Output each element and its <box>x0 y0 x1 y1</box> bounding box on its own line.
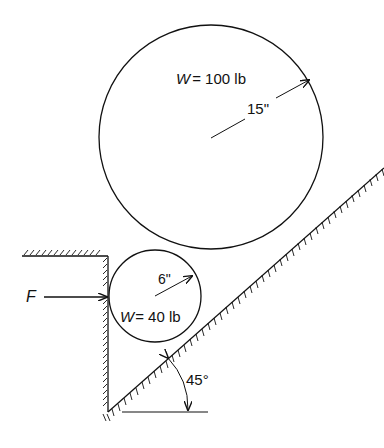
small-radius-label: 6" <box>158 271 171 287</box>
inclined-plane <box>103 168 384 421</box>
small-weight-symbol: W <box>120 308 136 325</box>
large-weight-label: W= 100 lb <box>176 70 246 87</box>
angle-label: 45° <box>186 371 209 388</box>
angle-arc <box>168 358 188 410</box>
vertical-wall <box>103 256 108 412</box>
top-ledge <box>22 250 108 256</box>
statics-diagram: W= 100 lb 15" 6" W= 40 lb F 45° <box>0 0 384 448</box>
large-weight-symbol: W <box>176 70 192 87</box>
small-weight-label: W= 40 lb <box>120 308 181 325</box>
large-weight-value: = 100 lb <box>192 70 246 87</box>
small-weight-value: = 40 lb <box>135 308 180 325</box>
large-cylinder <box>99 25 323 249</box>
large-radius-label: 15" <box>247 100 269 117</box>
force-label: F <box>26 288 37 305</box>
